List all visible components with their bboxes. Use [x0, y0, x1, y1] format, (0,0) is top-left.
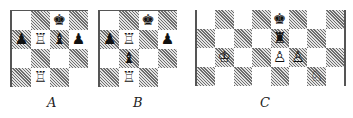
board-square — [69, 11, 88, 30]
white-rook-icon: ♖ — [122, 32, 135, 47]
board-square: ♟ — [69, 30, 88, 49]
board-square: ♖ — [31, 30, 50, 49]
black-king-icon: ♚ — [141, 13, 154, 28]
black-pawn-icon: ♟ — [103, 32, 116, 47]
black-pawn-icon: ♟ — [72, 32, 85, 47]
board-square: ♖ — [119, 30, 138, 49]
board-square — [307, 29, 325, 48]
board-square — [234, 10, 252, 29]
board-square — [100, 49, 119, 68]
board-square — [158, 49, 177, 68]
board-square: ♚ — [139, 11, 158, 30]
board-square — [252, 10, 270, 29]
diagram-label-c: C — [260, 95, 270, 110]
chess-diagram-a: ♚♟♖♝♟♖ — [10, 10, 88, 87]
board-square — [100, 11, 119, 30]
board-square: ♖ — [31, 68, 50, 87]
board-square — [197, 10, 215, 29]
board-square: ♖ — [119, 68, 138, 87]
board-square — [31, 11, 50, 30]
board-square — [289, 10, 307, 29]
board-square — [289, 67, 307, 86]
board-square — [326, 29, 344, 48]
board-square — [197, 67, 215, 86]
white-rook-icon: ♖ — [34, 70, 47, 85]
board-square — [234, 67, 252, 86]
white-rook-icon: ♖ — [122, 70, 135, 85]
black-bishop-icon: ♝ — [122, 51, 135, 66]
board-square: ♚ — [50, 11, 69, 30]
board-square — [271, 67, 289, 86]
board-square — [215, 29, 233, 48]
black-king-icon: ♚ — [53, 13, 66, 28]
board-square — [307, 48, 325, 67]
board-square — [252, 29, 270, 48]
board-square: ♙ — [271, 48, 289, 67]
board-square — [12, 49, 31, 68]
chess-diagram-b: ♚♟♖♟♝♖ — [98, 10, 177, 87]
board-square — [50, 68, 69, 87]
board-square — [252, 48, 270, 67]
board-square — [326, 67, 344, 86]
board-square — [31, 49, 50, 68]
board-square — [69, 68, 88, 87]
board-square — [252, 67, 270, 86]
board-square — [326, 48, 344, 67]
board-square — [139, 30, 158, 49]
board-square — [12, 68, 31, 87]
board-square: ♝ — [119, 49, 138, 68]
white-knight-icon: ♘ — [310, 69, 323, 84]
black-pawn-icon: ♟ — [15, 32, 28, 47]
board-square: ♜ — [271, 29, 289, 48]
board-square: ♝ — [50, 30, 69, 49]
black-king-icon: ♚ — [273, 12, 286, 27]
chess-diagram-c: ♚♜♔♙♙♘ — [195, 10, 346, 86]
board-square — [158, 68, 177, 87]
board-square — [234, 48, 252, 67]
board-square — [12, 11, 31, 30]
white-pawn-icon: ♙ — [291, 50, 304, 65]
board-square — [100, 68, 119, 87]
board-square — [326, 10, 344, 29]
board-square — [197, 29, 215, 48]
board-square: ♘ — [307, 67, 325, 86]
board-square — [197, 48, 215, 67]
board-square: ♟ — [158, 30, 177, 49]
board-square — [158, 11, 177, 30]
board-square — [215, 10, 233, 29]
board-square: ♟ — [12, 30, 31, 49]
white-pawn-icon: ♙ — [273, 50, 286, 65]
board-square: ♚ — [271, 10, 289, 29]
black-pawn-icon: ♟ — [161, 32, 174, 47]
white-rook-icon: ♖ — [34, 32, 47, 47]
board-square — [234, 29, 252, 48]
black-rook-icon: ♜ — [273, 31, 286, 46]
diagram-label-b: B — [133, 95, 143, 110]
board-square — [50, 49, 69, 68]
diagram-label-a: A — [47, 95, 56, 110]
board-square — [215, 67, 233, 86]
board-square — [139, 49, 158, 68]
black-bishop-icon: ♝ — [53, 32, 66, 47]
board-square: ♔ — [215, 48, 233, 67]
board-square — [119, 11, 138, 30]
board-square: ♙ — [289, 48, 307, 67]
board-square — [289, 29, 307, 48]
board-square — [139, 68, 158, 87]
board-square — [307, 10, 325, 29]
board-square — [69, 49, 88, 68]
white-king-icon: ♔ — [218, 50, 231, 65]
board-square: ♟ — [100, 30, 119, 49]
